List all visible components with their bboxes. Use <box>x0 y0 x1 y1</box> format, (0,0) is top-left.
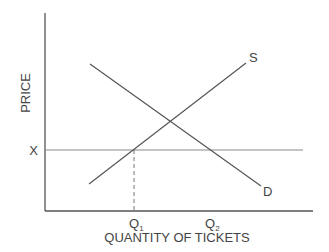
demand-label: D <box>263 184 272 199</box>
y-axis-label: PRICE <box>18 73 33 113</box>
supply-curve <box>89 63 246 184</box>
supply-label: S <box>249 50 258 65</box>
supply-demand-diagram: PRICE X S D Q1 Q2 QUANTITY OF TICKETS <box>0 0 329 252</box>
price-level-label: X <box>29 143 38 158</box>
x-axis-label: QUANTITY OF TICKETS <box>104 230 250 245</box>
q2-letter: Q <box>205 216 215 231</box>
q1-letter: Q <box>129 216 139 231</box>
demand-curve <box>90 64 261 186</box>
